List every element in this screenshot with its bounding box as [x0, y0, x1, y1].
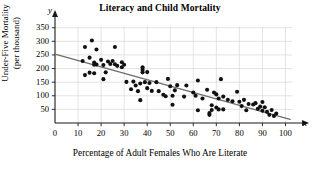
data-point: [94, 47, 98, 51]
data-point: [175, 83, 179, 87]
x-tick-label: 90: [252, 128, 272, 138]
data-point: [270, 108, 274, 112]
data-point: [138, 98, 142, 102]
data-point: [101, 77, 105, 81]
x-tick-label: 60: [183, 128, 203, 138]
data-point: [267, 113, 271, 117]
data-point: [83, 45, 87, 49]
data-point: [138, 81, 142, 85]
data-point: [83, 73, 87, 77]
data-point: [274, 111, 278, 115]
data-point: [260, 109, 264, 113]
data-point: [99, 58, 103, 62]
data-point: [113, 45, 117, 49]
y-tick-label: 350: [25, 22, 49, 32]
data-point: [131, 80, 135, 84]
x-tick-label: 80: [229, 128, 249, 138]
data-point: [136, 89, 140, 93]
data-point: [157, 89, 161, 93]
data-point: [253, 101, 257, 105]
data-point: [219, 77, 223, 81]
data-point: [221, 107, 225, 111]
data-point: [214, 92, 218, 96]
x-tick-label: 70: [206, 128, 226, 138]
data-point: [147, 81, 151, 85]
data-point: [182, 95, 186, 99]
y-tick-label: 300: [25, 36, 49, 46]
data-point: [217, 107, 221, 111]
data-point: [122, 63, 126, 67]
scatter-plot-figure: Literacy and Child Mortality Under-Five …: [0, 0, 320, 169]
data-point: [94, 62, 98, 66]
data-point: [226, 98, 230, 102]
data-point: [81, 59, 85, 63]
data-point: [240, 104, 244, 108]
data-point: [263, 105, 267, 109]
x-tick-label: 30: [114, 128, 134, 138]
data-point: [150, 89, 154, 93]
data-point: [154, 80, 158, 84]
data-point: [235, 90, 239, 94]
data-point: [247, 102, 251, 106]
data-point: [210, 108, 214, 112]
x-tick-label: 40: [137, 128, 157, 138]
x-axis-letter: x: [303, 118, 307, 128]
data-point: [90, 38, 94, 42]
data-point: [207, 113, 211, 117]
data-point: [170, 103, 174, 107]
data-point: [196, 108, 200, 112]
data-point: [173, 88, 177, 92]
data-point: [141, 65, 145, 69]
tick-marks: [52, 28, 286, 126]
y-axis-letter: y: [48, 5, 52, 15]
data-point: [230, 99, 234, 103]
data-point: [101, 63, 105, 67]
data-point: [141, 70, 145, 74]
data-point: [164, 94, 168, 98]
x-tick-label: 20: [91, 128, 111, 138]
x-tick-label: 100: [275, 128, 295, 138]
data-point: [134, 83, 138, 87]
data-point: [260, 100, 264, 104]
data-point: [205, 88, 209, 92]
data-point: [143, 80, 147, 84]
data-point: [210, 103, 214, 107]
data-point: [145, 70, 149, 74]
data-point: [200, 96, 204, 100]
y-tick-label: 250: [25, 49, 49, 59]
data-point: [221, 95, 225, 99]
data-point: [166, 77, 170, 81]
data-point: [184, 83, 188, 87]
x-tick-label: 0: [45, 128, 65, 138]
data-point: [217, 96, 221, 100]
y-tick-label: 150: [25, 77, 49, 87]
data-point: [170, 94, 174, 98]
data-point: [129, 87, 133, 91]
data-point: [258, 105, 262, 109]
x-tick-label: 10: [68, 128, 88, 138]
data-point: [244, 108, 248, 112]
data-points: [81, 38, 279, 118]
y-axis-arrowhead: [52, 10, 58, 17]
data-point: [237, 100, 241, 104]
data-point: [168, 84, 172, 88]
data-point: [88, 71, 92, 75]
y-tick-label: 50: [25, 104, 49, 114]
x-tick-label: 50: [160, 128, 180, 138]
y-tick-label: 200: [25, 63, 49, 73]
data-point: [115, 64, 119, 68]
data-point: [88, 56, 92, 60]
data-point: [196, 78, 200, 82]
data-point: [145, 86, 149, 90]
y-tick-label: 100: [25, 90, 49, 100]
data-point: [92, 71, 96, 75]
data-point: [104, 70, 108, 74]
data-point: [124, 80, 128, 84]
data-point: [242, 98, 246, 102]
data-point: [194, 94, 198, 98]
